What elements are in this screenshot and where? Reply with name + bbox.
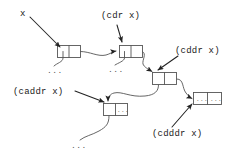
label-caddr-x: (caddr x)	[13, 87, 63, 97]
ellipsis-cell2: ...	[108, 66, 124, 74]
label-cddr-x: (cddr x)	[175, 46, 220, 56]
cell4-cdr-content: ...	[117, 107, 129, 114]
cons-cell-2	[120, 46, 143, 58]
label-cdr-x: (cdr x)	[101, 11, 140, 21]
label-cdddr-x: (cdddr x)	[152, 129, 202, 139]
link-cell3-to-cell4	[108, 85, 159, 101]
ellipsis-cell4: ...	[71, 142, 87, 150]
cell5-car-content: ...	[196, 96, 208, 103]
cons-cell-3	[153, 73, 177, 85]
arrow-cdr-to-cell2	[117, 25, 122, 42]
cons-cell-diagram: x (cdr x) (cddr x) (caddr x) (cdddr x) .…	[0, 0, 233, 156]
arrow-cdddr-to-cell5	[172, 104, 192, 127]
link-cell4-to-dots	[80, 116, 109, 140]
link-cell1-to-cell2	[81, 51, 117, 55]
cons-cell-1	[58, 46, 81, 58]
arrow-x-to-cell1	[30, 17, 60, 47]
ellipsis-cell1: ...	[47, 67, 63, 75]
arrow-caddr-to-cell4	[75, 91, 104, 102]
label-x: x	[20, 9, 26, 19]
link-cell2-to-cell3	[143, 52, 153, 72]
arrow-cddr-to-cell3	[158, 56, 178, 70]
cell5-cdr-content: ...	[210, 96, 222, 103]
link-cell3-to-cell5	[177, 79, 192, 99]
